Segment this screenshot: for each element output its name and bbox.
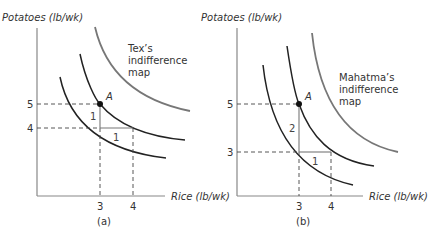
y-axis-label: Potatoes (lb/wk) (2, 12, 83, 23)
y-tick-5: 5 (227, 99, 233, 110)
step-vertical-label: 2 (289, 123, 295, 134)
step-horizontal-label: 1 (312, 156, 318, 167)
x-axis-label: Rice (lb/wk) (369, 191, 428, 202)
panel-a: Potatoes (lb/wk) Rice (lb/wk) A 1 1 5 4 … (2, 12, 230, 227)
x-tick-4: 4 (130, 201, 136, 212)
point-a (97, 101, 103, 107)
map-label-line2: indifference (339, 84, 398, 95)
point-a-label: A (105, 91, 113, 102)
x-tick-4: 4 (328, 201, 334, 212)
point-a (296, 101, 302, 107)
map-label-line1: Tex’s (127, 43, 153, 54)
panel-caption: (b) (296, 216, 310, 227)
map-label-line3: map (339, 96, 361, 107)
x-tick-3: 3 (296, 201, 302, 212)
y-tick-5: 5 (27, 99, 33, 110)
step-horizontal-label: 1 (113, 132, 119, 143)
x-tick-3: 3 (97, 201, 103, 212)
panel-caption: (a) (97, 216, 111, 227)
map-label-line2: indifference (128, 55, 187, 66)
y-tick-3: 3 (227, 147, 233, 158)
indifference-diagram: Potatoes (lb/wk) Rice (lb/wk) A 1 1 5 4 … (0, 0, 432, 236)
point-a-label: A (304, 91, 312, 102)
y-tick-4: 4 (27, 123, 33, 134)
step-vertical-label: 1 (90, 111, 96, 122)
panel-b: Potatoes (lb/wk) Rice (lb/wk) A 2 1 5 3 … (201, 12, 428, 227)
x-axis-label: Rice (lb/wk) (171, 191, 230, 202)
indifference-curve-1 (60, 77, 166, 158)
map-label-line1: Mahatma’s (339, 72, 394, 83)
map-label-line3: map (128, 67, 150, 78)
y-axis-label: Potatoes (lb/wk) (201, 12, 282, 23)
